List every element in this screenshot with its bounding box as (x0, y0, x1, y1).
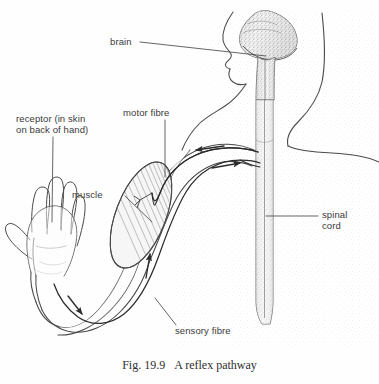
label-sensory-fibre: sensory fibre (175, 325, 231, 336)
figure-title: A reflex pathway (174, 358, 257, 372)
figure-caption: Fig. 19.9A reflex pathway (0, 358, 379, 373)
background-stipple (176, 14, 379, 346)
label-receptor-line2: on back of hand) (16, 124, 88, 135)
sensory-arrow-forearm (68, 296, 82, 314)
label-spinal-cord-line2: cord (322, 220, 341, 231)
sensory-fibre-leader (155, 298, 176, 325)
brainstem (256, 57, 275, 100)
label-motor-fibre: motor fibre (123, 107, 170, 118)
figure-number: Fig. 19.9 (122, 358, 165, 372)
spinal-cord (256, 100, 273, 324)
label-receptor-line1: receptor (in skin (16, 113, 85, 124)
reflex-pathway-figure: brain motor fibre receptor (in skin on b… (0, 0, 379, 384)
motor-arrow-upper-arm (146, 254, 150, 278)
label-spinal-cord-line1: spinal (322, 209, 347, 220)
label-brain: brain (110, 36, 132, 47)
label-muscle: muscle (72, 189, 103, 200)
